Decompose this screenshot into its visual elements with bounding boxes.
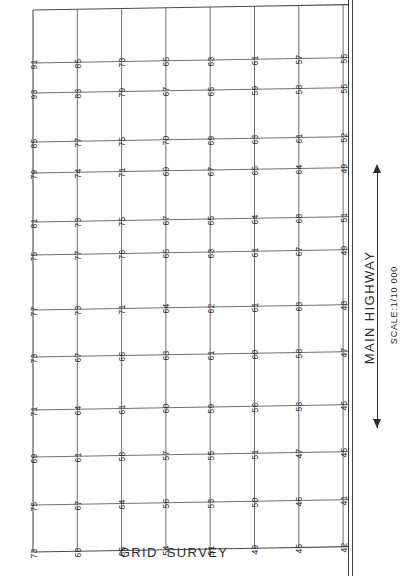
grid-node-value: 85	[73, 58, 82, 68]
grid-node-value: 77	[73, 137, 82, 147]
grid-node-value: 67	[162, 87, 171, 97]
grid-node-value: 73	[73, 305, 82, 315]
grid-node-value: 71	[29, 406, 38, 416]
grid-node-value: 77	[29, 306, 38, 316]
grid-node-value: 64	[295, 164, 304, 174]
grid-node-value: 77	[73, 250, 82, 260]
grid-node-value: 75	[118, 136, 127, 146]
highway-label: MAIN HIGHWAY	[362, 245, 377, 371]
highway-arrow-shaft	[377, 172, 378, 428]
grid-node-value: 61	[206, 350, 215, 360]
grid-node-value: 45	[339, 448, 348, 458]
survey-grid: 9193857981757773716975738583777473777367…	[0, 0, 348, 576]
grid-node-value: 61	[251, 247, 260, 257]
grid-node-value: 64	[73, 405, 82, 415]
grid-node-value: 62	[206, 303, 215, 313]
grid-node-value: 73	[73, 217, 82, 227]
grid-node-value: 79	[118, 87, 127, 97]
grid-node-value: 81	[29, 218, 38, 228]
grid-node-value: 65	[162, 57, 171, 67]
grid-node-value: 49	[339, 246, 348, 256]
grid-node-value: 55	[339, 84, 348, 94]
grid-node-value: 63	[251, 134, 260, 144]
grid-node-value: 51	[251, 449, 260, 459]
grid-node-value: 67	[206, 166, 215, 176]
grid-node-value: 61	[251, 55, 260, 65]
grid-node-value: 69	[29, 453, 38, 463]
grid-node-value: 57	[295, 54, 304, 64]
highway-line-east	[352, 0, 353, 576]
grid-node-value: 58	[118, 451, 127, 461]
grid-node-value: 63	[295, 301, 304, 311]
grid-node-value: 61	[73, 452, 82, 462]
grid-node-value: 63	[162, 351, 171, 361]
grid-node-value: 64	[118, 499, 127, 509]
grid-node-value: 58	[295, 348, 304, 358]
grid-node-value: 48	[339, 301, 348, 311]
grid-node-value: 52	[339, 133, 348, 143]
grid-node-value: 67	[73, 500, 82, 510]
grid-node-value: 61	[295, 133, 304, 143]
grid-node-value: 64	[251, 214, 260, 224]
grid-node-value: 71	[118, 304, 127, 314]
grid-node-value: 75	[29, 251, 38, 261]
grid-survey-figure: 9193857981757773716975738583777473777367…	[0, 0, 409, 576]
grid-node-value: 45	[339, 401, 348, 411]
grid-node-value: 75	[29, 501, 38, 511]
arrow-down-icon	[373, 419, 381, 428]
grid-node-value: 75	[118, 216, 127, 226]
grid-node-value: 49	[339, 164, 348, 174]
highway-annotation: MAIN HIGHWAY SCALE:1/10 000	[356, 150, 409, 450]
grid-node-value: 51	[339, 213, 348, 223]
grid-node-value: 58	[295, 84, 304, 94]
grid-node-value: 74	[73, 168, 82, 178]
grid-node-value: 73	[29, 353, 38, 363]
grid-node-value: 41	[339, 496, 348, 506]
grid-node-value: 56	[251, 402, 260, 412]
highway-line-west	[348, 0, 349, 576]
grid-node-value: 73	[118, 57, 127, 67]
grid-node-value: 59	[206, 403, 215, 413]
scale-label: SCALE:1/10 000	[389, 266, 399, 344]
grid-node-value: 67	[73, 352, 82, 362]
grid-node-value: 53	[295, 401, 304, 411]
grid-node-value: 57	[162, 451, 171, 461]
grid-node-value: 46	[295, 496, 304, 506]
grid-node-value: 64	[162, 304, 171, 314]
grid-node-value: 59	[251, 85, 260, 95]
arrow-up-icon	[373, 164, 381, 173]
grid-node-value: 63	[206, 56, 215, 66]
grid-node-value: 61	[118, 404, 127, 414]
grid-node-value: 68	[295, 213, 304, 223]
grid-node-value: 85	[29, 138, 38, 148]
grid-node-value: 65	[162, 249, 171, 259]
grid-node-value: 76	[118, 249, 127, 259]
grid-node-value: 65	[206, 215, 215, 225]
grid-node-value: 69	[206, 135, 215, 145]
grid-node-value: 50	[251, 497, 260, 507]
grid-node-value: 63	[206, 248, 215, 258]
grid-node-value: 69	[162, 167, 171, 177]
grid-node-value: 67	[295, 246, 304, 256]
grid-node-value: 47	[339, 348, 348, 358]
grid-node-value: 79	[29, 169, 38, 179]
grid-node-value: 93	[29, 89, 38, 99]
grid-node-value: 60	[251, 349, 260, 359]
grid-node-value: 56	[162, 499, 171, 509]
grid-node-value: 91	[29, 59, 38, 69]
grid-line-horizontal	[33, 4, 348, 10]
grid-node-value: 65	[206, 86, 215, 96]
figure-caption: GRID SURVEY	[0, 545, 348, 560]
grid-node-value: 83	[73, 88, 82, 98]
grid-node-value: 61	[251, 302, 260, 312]
grid-node-value: 55	[339, 54, 348, 64]
grid-node-value: 70	[162, 136, 171, 146]
grid-node-value: 53	[206, 498, 215, 508]
grid-node-value: 67	[162, 216, 171, 226]
grid-node-value: 60	[162, 404, 171, 414]
grid-node-value: 55	[206, 450, 215, 460]
grid-node-value: 66	[118, 351, 127, 361]
grid-node-value: 71	[118, 167, 127, 177]
grid-node-value: 65	[251, 165, 260, 175]
grid-node-value: 47	[295, 448, 304, 458]
